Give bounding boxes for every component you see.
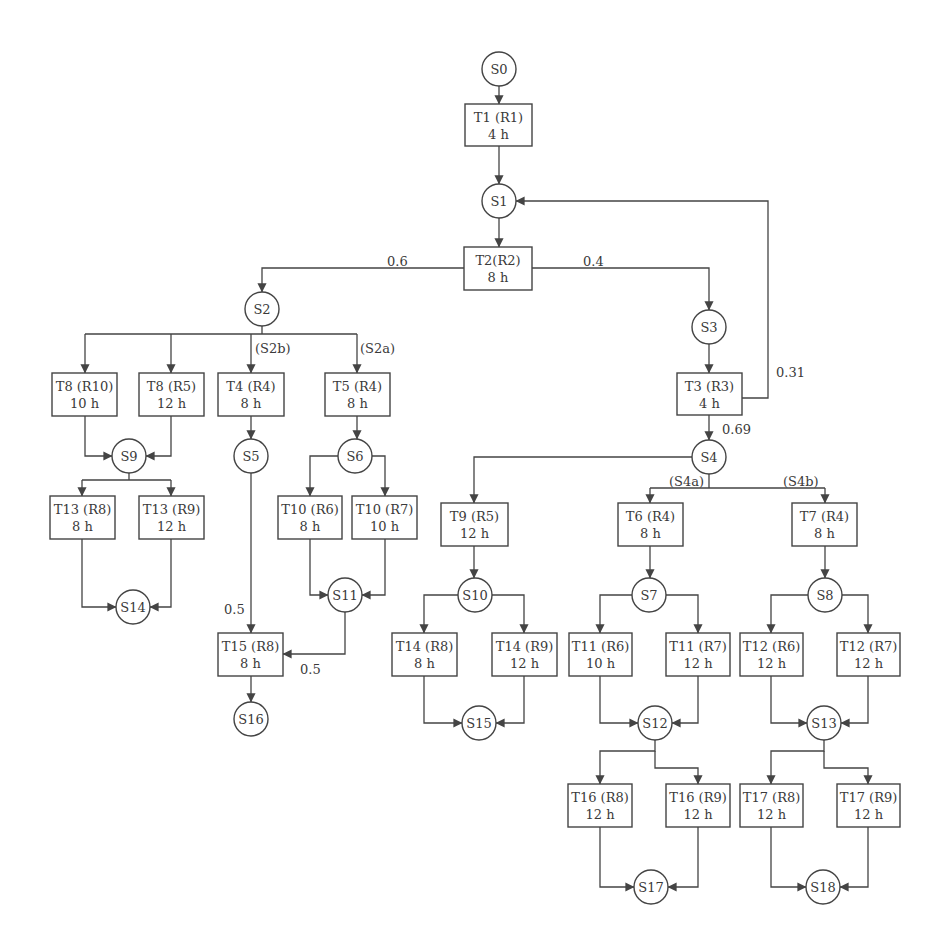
edge-t8b-s9	[146, 416, 171, 456]
task-duration-label: 12 h	[757, 656, 787, 671]
state-node-s11: S11	[328, 578, 362, 612]
task-duration-label: 10 h	[370, 519, 400, 534]
state-node-s2: S2	[245, 292, 279, 326]
task-resource-label: T16 (R8)	[571, 790, 629, 805]
task-node-t14-r9: T14 (R9)12 h	[492, 633, 557, 676]
edge-s11-t15	[283, 612, 345, 654]
edge-label-l-s4b: (S4b)	[783, 474, 819, 489]
task-node-t12-r7: T12 (R7)12 h	[837, 633, 900, 676]
edge-t14b-s15	[496, 676, 524, 723]
edge-s7-t11a	[600, 595, 632, 633]
state-node-s1: S1	[482, 184, 516, 218]
state-node-s18: S18	[806, 870, 840, 904]
state-label: S0	[490, 62, 507, 77]
edge-t17a-s18	[771, 827, 806, 887]
edge-t12a-s13	[771, 676, 807, 723]
task-resource-label: T14 (R8)	[396, 639, 454, 654]
task-duration-label: 8 h	[240, 656, 261, 671]
edge-label-p-s4: 0.69	[722, 422, 751, 437]
edge-label-l-s2b: (S2b)	[255, 341, 291, 356]
task-duration-label: 8 h	[300, 519, 321, 534]
edge-t13a-s14	[82, 539, 116, 607]
task-node-t10-r7: T10 (R7)10 h	[352, 496, 417, 539]
edge-t2-s3	[532, 268, 709, 310]
edge-t11a-s12	[600, 676, 638, 723]
edge-t12b-s13	[841, 676, 868, 723]
state-label: S7	[640, 588, 657, 603]
state-node-s3: S3	[692, 310, 726, 344]
task-node-t9: T9 (R5)12 h	[441, 503, 508, 546]
task-resource-label: T8 (R5)	[147, 379, 196, 394]
edge-s4-t9	[474, 457, 692, 503]
edge-s2-bar	[85, 326, 357, 334]
task-resource-label: T10 (R7)	[356, 502, 414, 517]
task-duration-label: 8 h	[241, 396, 262, 411]
edge-t11b-s12	[672, 676, 698, 723]
edge-s8-t12b	[842, 595, 868, 633]
edge-t10a-s11	[310, 539, 328, 595]
task-duration-label: 12 h	[585, 807, 615, 822]
task-resource-label: T16 (R9)	[669, 790, 727, 805]
state-label: S5	[242, 449, 259, 464]
edges-layer	[82, 86, 868, 887]
task-duration-label: 8 h	[488, 270, 509, 285]
task-duration-label: 12 h	[460, 526, 490, 541]
states-layer: S0S1S2S3S4S5S6S7S8S9S10S11S12S13S14S15S1…	[112, 52, 842, 904]
state-node-s15: S15	[462, 706, 496, 740]
task-resource-label: T17 (R8)	[743, 790, 801, 805]
state-node-s17: S17	[634, 870, 668, 904]
edge-label-p-s11: 0.5	[300, 662, 321, 677]
task-duration-label: 12 h	[683, 656, 713, 671]
state-node-s9: S9	[112, 439, 146, 473]
state-label: S1	[490, 194, 507, 209]
edge-t17b-s18	[840, 827, 868, 887]
edge-label-p-s5: 0.5	[224, 602, 245, 617]
edge-t13b-s14	[150, 539, 171, 607]
task-node-t10-r6: T10 (R6)8 h	[278, 496, 342, 539]
diagram-canvas: 0.60.40.310.69(S2b)(S2a)(S4a)(S4b)0.50.5…	[0, 0, 950, 946]
state-label: S2	[253, 302, 270, 317]
edge-t10b-s11	[362, 539, 385, 595]
task-resource-label: T1 (R1)	[474, 110, 523, 125]
task-resource-label: T13 (R8)	[54, 502, 112, 517]
edge-label-p-s2: 0.6	[387, 254, 408, 269]
state-node-s10: S10	[458, 578, 492, 612]
state-node-s0: S0	[482, 52, 516, 86]
task-resource-label: T8 (R10)	[56, 379, 114, 394]
state-label: S15	[466, 716, 491, 731]
edge-labels-layer: 0.60.40.310.69(S2b)(S2a)(S4a)(S4b)0.50.5	[224, 254, 819, 677]
state-label: S9	[120, 449, 137, 464]
task-node-t5: T5 (R4)8 h	[325, 373, 390, 416]
edge-t16a-s17	[600, 827, 634, 887]
state-label: S3	[700, 320, 717, 335]
task-node-t16-r8: T16 (R8)12 h	[568, 784, 632, 827]
process-flow-diagram: 0.60.40.310.69(S2b)(S2a)(S4a)(S4b)0.50.5…	[0, 0, 950, 946]
task-duration-label: 8 h	[640, 526, 661, 541]
task-resource-label: T2(R2)	[475, 253, 520, 268]
task-resource-label: T5 (R4)	[333, 379, 382, 394]
edge-label-p-s3: 0.4	[583, 254, 604, 269]
task-duration-label: 8 h	[814, 526, 835, 541]
state-label: S4	[700, 450, 717, 465]
edge-s7-t11b	[666, 595, 698, 633]
task-node-t8-r5: T8 (R5)12 h	[139, 373, 204, 416]
task-node-t14-r8: T14 (R8)8 h	[392, 633, 457, 676]
edge-s6-t10a	[310, 456, 338, 496]
edge-label-l-s2a: (S2a)	[360, 341, 395, 356]
edge-s10-t14a	[424, 595, 458, 633]
edge-t3-s1	[516, 201, 768, 398]
task-node-t2: T2(R2)8 h	[464, 247, 532, 290]
state-label: S18	[810, 880, 835, 895]
task-resource-label: T3 (R3)	[685, 379, 734, 394]
task-duration-label: 4 h	[488, 127, 509, 142]
edge-label-l-s4a: (S4a)	[669, 474, 704, 489]
task-node-t16-r9: T16 (R9)12 h	[666, 784, 730, 827]
task-resource-label: T17 (R9)	[840, 790, 898, 805]
state-node-s16: S16	[234, 702, 268, 736]
task-node-t13-r8: T13 (R8)8 h	[50, 496, 115, 539]
state-node-s8: S8	[808, 578, 842, 612]
task-node-t15: T15 (R8)8 h	[218, 633, 283, 676]
edge-s13-t17b	[824, 751, 868, 784]
task-resource-label: T7 (R4)	[800, 509, 849, 524]
state-label: S11	[332, 588, 357, 603]
